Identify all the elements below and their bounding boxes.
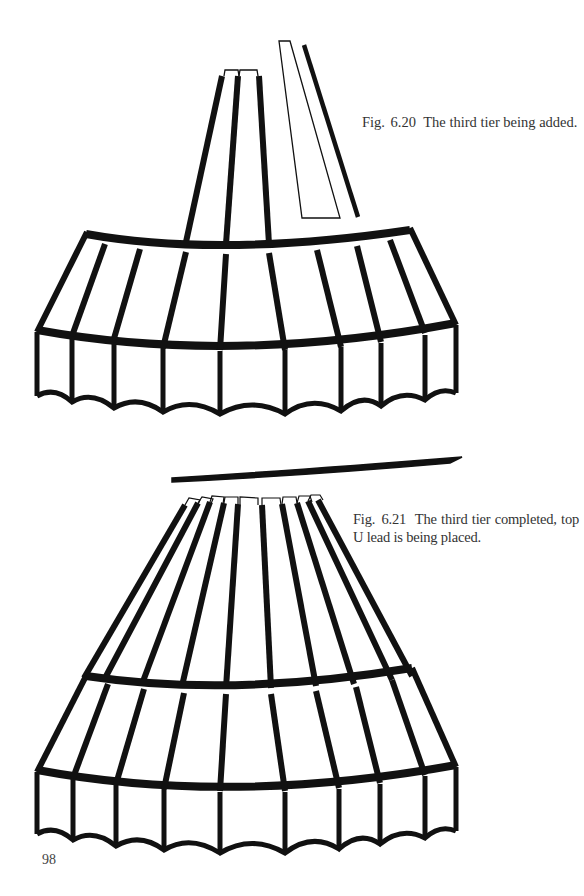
figure-label: Fig. 6.21 — [353, 511, 406, 527]
figure-6-20-caption: Fig. 6.20 The third tier being added. — [362, 113, 582, 131]
figure-6-20-drawing — [37, 41, 456, 414]
lampshade-diagrams — [0, 0, 584, 896]
figure-6-21-caption: Fig. 6.21 The third tier completed, top … — [353, 510, 579, 546]
caption-text: The third tier being added. — [423, 114, 577, 130]
figure-label: Fig. 6.20 — [362, 114, 416, 130]
page-number: 98 — [42, 852, 56, 868]
